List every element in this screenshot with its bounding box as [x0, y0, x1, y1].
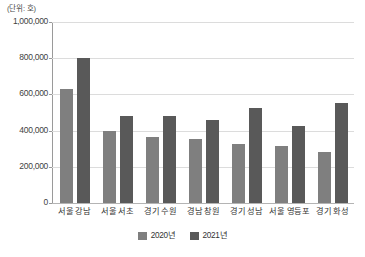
- bar-group: [53, 22, 96, 203]
- bar[interactable]: [232, 144, 245, 203]
- bar[interactable]: [318, 152, 331, 203]
- bar-groups: [53, 22, 354, 203]
- legend-label: 2020년: [151, 231, 176, 241]
- bar-group: [268, 22, 311, 203]
- bar-group: [311, 22, 354, 203]
- bar[interactable]: [60, 89, 73, 203]
- legend-item[interactable]: 2021년: [190, 231, 228, 241]
- bar-chart: (단위: 호) 1,000,000800,000600,000400,00020…: [0, 0, 365, 257]
- y-axis-tick-label: 400,000: [0, 126, 48, 135]
- y-axis-tick-mark: [49, 131, 52, 132]
- y-axis-tick-mark: [49, 94, 52, 95]
- y-axis-tick-mark: [49, 167, 52, 168]
- bar[interactable]: [146, 137, 159, 203]
- gridline: [52, 203, 354, 204]
- x-axis-labels: 서울 강남서울 서초경기 수원경남 창원경기 성남서울 영등포경기 화성: [53, 206, 354, 217]
- bar-group: [139, 22, 182, 203]
- x-axis-label: 서울 강남: [53, 206, 96, 217]
- bar[interactable]: [335, 103, 348, 203]
- bar[interactable]: [120, 116, 133, 203]
- bar[interactable]: [163, 116, 176, 203]
- legend-item[interactable]: 2020년: [138, 231, 176, 241]
- y-axis-tick-label: 0: [0, 198, 48, 207]
- bar-group: [225, 22, 268, 203]
- bar[interactable]: [292, 126, 305, 203]
- y-axis-tick-mark: [49, 203, 52, 204]
- y-axis-tick-label: 600,000: [0, 89, 48, 98]
- bar[interactable]: [275, 146, 288, 203]
- legend-swatch-icon: [190, 232, 199, 240]
- x-axis-label: 서울 서초: [96, 206, 139, 217]
- bar[interactable]: [249, 108, 262, 203]
- x-axis-label: 서울 영등포: [268, 206, 311, 217]
- y-axis-tick-label: 200,000: [0, 162, 48, 171]
- bar[interactable]: [206, 120, 219, 203]
- bar[interactable]: [103, 131, 116, 203]
- bar[interactable]: [77, 58, 90, 203]
- legend-swatch-icon: [138, 232, 147, 240]
- y-axis-tick-mark: [49, 22, 52, 23]
- y-axis-tick-label: 1,000,000: [0, 17, 48, 26]
- bar[interactable]: [189, 139, 202, 203]
- y-axis-tick-labels: 1,000,000800,000600,000400,000200,0000: [0, 0, 48, 257]
- bar-group: [182, 22, 225, 203]
- legend-label: 2021년: [203, 231, 228, 241]
- x-axis-label: 경기 성남: [225, 206, 268, 217]
- x-axis-label: 경기 화성: [311, 206, 354, 217]
- bar-group: [96, 22, 139, 203]
- x-axis-label: 경남 창원: [182, 206, 225, 217]
- y-axis-tick-mark: [49, 58, 52, 59]
- y-axis-tick-label: 800,000: [0, 53, 48, 62]
- chart-legend: 2020년2021년: [0, 231, 365, 241]
- x-axis-label: 경기 수원: [139, 206, 182, 217]
